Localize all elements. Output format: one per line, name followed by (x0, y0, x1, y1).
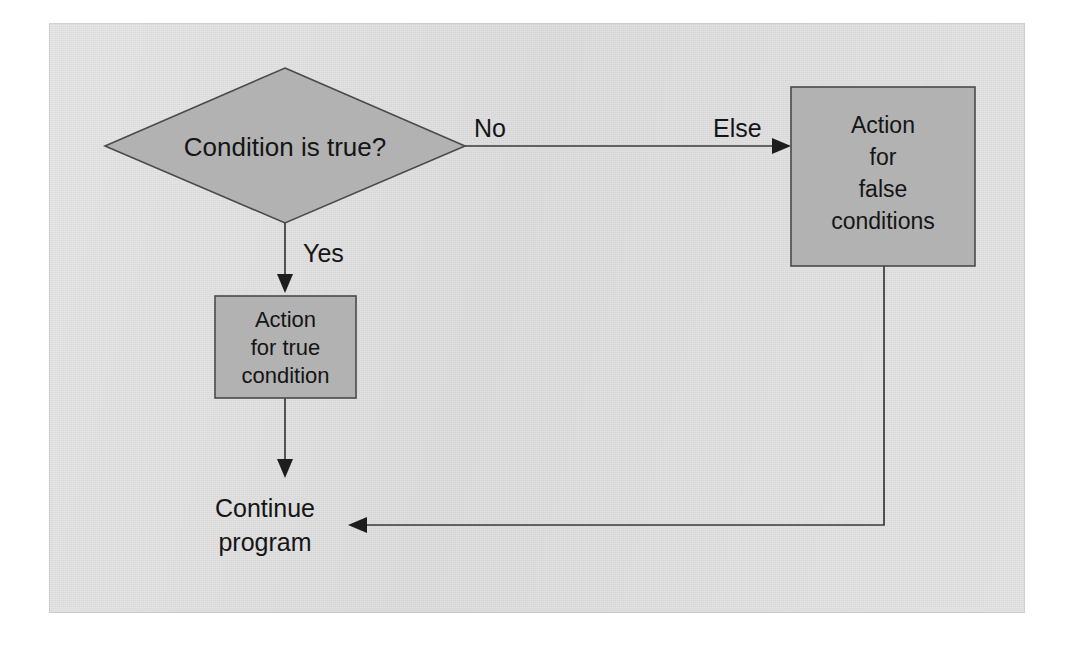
false-action-label-line-3: false (859, 176, 908, 202)
continue-program-line-2: program (218, 528, 311, 556)
true-action-node[interactable]: Action for true condition (215, 296, 356, 398)
decision-node-label: Condition is true? (184, 132, 386, 162)
edge-label-no: No (474, 114, 506, 142)
false-action-label-line-4: conditions (831, 208, 935, 234)
flowchart-graphic: Condition is true? Action for true condi… (0, 0, 1082, 645)
false-action-node[interactable]: Action for false conditions (791, 87, 975, 266)
edge-label-else: Else (713, 114, 762, 142)
edge-decision-to-true-action (277, 223, 293, 293)
continue-program-node[interactable]: Continue program (215, 494, 315, 556)
edge-true-action-to-continue (277, 398, 293, 478)
decision-node[interactable]: Condition is true? (105, 68, 465, 223)
true-action-label-line-1: Action (255, 307, 316, 332)
continue-program-line-1: Continue (215, 494, 315, 522)
false-action-label-line-2: for (870, 144, 897, 170)
edge-false-action-to-continue (348, 266, 884, 533)
edge-label-yes: Yes (303, 239, 344, 267)
true-action-label-line-2: for true (251, 335, 321, 360)
true-action-label-line-3: condition (241, 363, 329, 388)
figure-canvas: Condition is true? Action for true condi… (0, 0, 1082, 645)
false-action-label-line-1: Action (851, 112, 915, 138)
